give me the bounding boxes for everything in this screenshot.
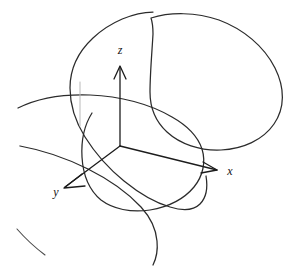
axes-diagram-svg: 3D coordinate axes with intersecting ell…	[0, 0, 294, 276]
curve-arc-lower-left-tail	[17, 229, 45, 255]
axis-y-label: y	[52, 185, 59, 199]
axis-y-arrowhead	[64, 174, 85, 188]
axis-x: x	[120, 146, 233, 178]
axis-y: y	[52, 146, 120, 199]
axis-z: z	[114, 43, 126, 146]
axis-z-label: z	[117, 43, 123, 57]
figure-canvas: 3D coordinate axes with intersecting ell…	[0, 0, 294, 276]
axis-x-label: x	[226, 164, 233, 178]
curve-ellipse-right-plane	[150, 14, 282, 150]
curve-ellipse-left-plane	[70, 12, 207, 209]
curve-arc-upper-left-tail	[20, 146, 157, 265]
